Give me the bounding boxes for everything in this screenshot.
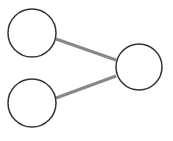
nodes-group <box>8 9 162 127</box>
node-n1 <box>8 9 56 57</box>
edges-group <box>56 39 116 98</box>
node-n3 <box>116 44 162 90</box>
edge-n2-n3 <box>56 76 116 98</box>
node-n2 <box>8 79 56 127</box>
diagram-canvas <box>0 0 173 141</box>
edge-n1-n3 <box>56 39 116 60</box>
graph-diagram <box>0 0 173 141</box>
